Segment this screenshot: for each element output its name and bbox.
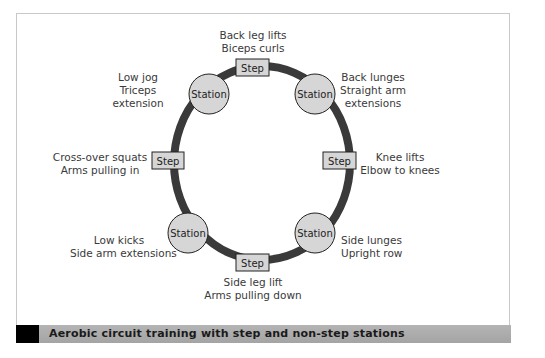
label-bottom: Side leg lift Arms pulling down (202, 276, 304, 302)
label-line: Arms pulling down (202, 289, 304, 302)
svg-text:Station: Station (191, 89, 227, 100)
label-line: Back leg lifts (203, 29, 303, 42)
label-line: Knee lifts (360, 151, 440, 164)
label-bottom-left: Low kicks Side arm extensions (70, 234, 168, 260)
label-top-left: Low jog Triceps extension (108, 71, 168, 110)
label-line: Low kicks (70, 234, 168, 247)
label-line: Biceps curls (203, 42, 303, 55)
step-top: Step (236, 59, 269, 76)
label-line: Side leg lift (202, 276, 304, 289)
caption-text: Aerobic circuit training with step and n… (49, 327, 405, 340)
label-top: Back leg lifts Biceps curls (203, 29, 303, 55)
label-line: Back lunges (336, 71, 410, 84)
label-bottom-right: Side lunges Upright row (341, 234, 421, 260)
svg-text:Station: Station (170, 228, 206, 239)
label-line: Low jog (108, 71, 168, 84)
station-bottom-right: Station (295, 213, 335, 253)
step-bottom: Step (236, 254, 269, 271)
caption-marker (16, 325, 39, 343)
svg-text:Station: Station (297, 89, 333, 100)
svg-text:Step: Step (241, 63, 264, 74)
label-line: Side lunges (341, 234, 421, 247)
label-right: Knee lifts Elbow to knees (360, 151, 440, 177)
label-line: Cross-over squats (52, 151, 148, 164)
label-line: Upright row (341, 247, 421, 260)
svg-text:Step: Step (241, 258, 264, 269)
label-line: extension (108, 97, 168, 110)
label-line: Arms pulling in (52, 164, 148, 177)
label-line: Side arm extensions (70, 247, 168, 260)
step-right: Step (323, 152, 356, 169)
label-line: extensions (336, 97, 410, 110)
station-top-right: Station (295, 74, 335, 114)
station-top-left: Station (189, 74, 229, 114)
label-left: Cross-over squats Arms pulling in (52, 151, 148, 177)
label-top-right: Back lunges Straight arm extensions (336, 71, 410, 110)
svg-text:Step: Step (157, 156, 180, 167)
label-line: Straight arm (336, 84, 410, 97)
caption-bar: Aerobic circuit training with step and n… (16, 325, 511, 343)
svg-text:Step: Step (328, 156, 351, 167)
label-line: Elbow to knees (360, 164, 440, 177)
svg-text:Station: Station (297, 228, 333, 239)
step-left: Step (152, 152, 184, 169)
label-line: Triceps (108, 84, 168, 97)
